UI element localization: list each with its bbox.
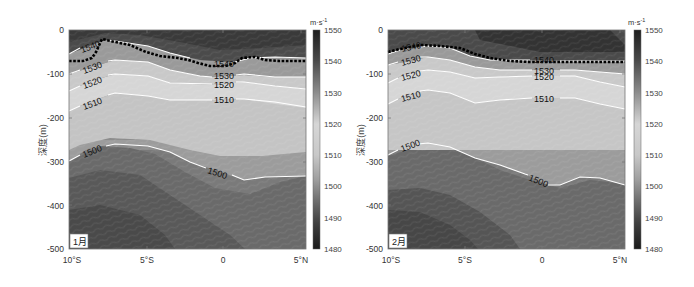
svg-text:1480: 1480	[324, 245, 342, 254]
svg-text:1480: 1480	[645, 245, 663, 254]
svg-text:1500: 1500	[645, 182, 663, 191]
y-tick-label: -200	[366, 113, 383, 123]
svg-text:1510: 1510	[324, 151, 342, 160]
plot-area: 1540 1530 1520 1510 1500 1540 1530 1520 …	[388, 30, 625, 249]
x-tick-label: 0	[221, 255, 226, 265]
contour-label: 1510	[214, 95, 234, 105]
y-tick-label: -400	[366, 201, 383, 211]
svg-text:1530: 1530	[645, 89, 663, 98]
y-tick-label: 0	[378, 25, 383, 35]
y-tick-label: -500	[47, 244, 64, 254]
y-tick-label: -100	[366, 69, 383, 79]
y-tick-label: 0	[59, 25, 64, 35]
colorbar: m·s-1 1550 1540 1530 1520 1510 1500 1490…	[628, 17, 663, 254]
panel-label: 2月	[392, 237, 406, 247]
contour-label: 1540	[534, 55, 554, 65]
svg-text:1550: 1550	[324, 26, 342, 35]
y-tick-label: -200	[47, 113, 64, 123]
colorbar-ticks: 1550 1540 1530 1520 1510 1500 1490 1480	[645, 26, 663, 254]
y-axis: 0 -100 -200 -300 -400 -500	[366, 25, 383, 254]
x-tick-label: 5°S	[458, 255, 472, 265]
contour-label: 1520	[534, 72, 554, 82]
y-axis-label: 深度(m)	[355, 124, 366, 156]
y-tick-label: -100	[47, 69, 64, 79]
figure: 1540 1530 1520 1510 1500 1540 1530 1520 …	[0, 0, 694, 287]
svg-text:1490: 1490	[645, 214, 663, 223]
x-tick-label: 0	[540, 255, 545, 265]
contour-label: 1520	[214, 80, 234, 90]
y-tick-label: -500	[366, 244, 383, 254]
colorbar: m·s-1 1550 1540 1530 1520 1510 1500 1490…	[310, 17, 342, 254]
y-tick-label: -300	[366, 157, 383, 167]
svg-text:1540: 1540	[324, 57, 342, 66]
svg-text:1510: 1510	[645, 151, 663, 160]
colorbar-unit: m·s-1	[628, 17, 645, 27]
x-tick-label: 5°N	[294, 255, 308, 265]
panel-january: 1540 1530 1520 1510 1500 1540 1530 1520 …	[37, 17, 342, 265]
x-tick-label: 10°S	[63, 255, 82, 265]
svg-text:1550: 1550	[645, 26, 663, 35]
colorbar-ticks: 1550 1540 1530 1520 1510 1500 1490 1480	[324, 26, 342, 254]
plot-area: 1540 1530 1520 1510 1500 1540 1530 1520 …	[69, 30, 306, 249]
x-tick-label: 10°S	[382, 255, 401, 265]
y-tick-label: -300	[47, 157, 64, 167]
y-axis: 0 -100 -200 -300 -400 -500	[47, 25, 64, 254]
svg-text:1520: 1520	[645, 120, 663, 129]
svg-text:1500: 1500	[324, 182, 342, 191]
panel-label: 1月	[73, 237, 87, 247]
contour-label: 1510	[534, 94, 554, 104]
x-tick-label: 5°S	[140, 255, 154, 265]
x-axis: 10°S 5°S 0 5°N	[63, 255, 308, 265]
y-axis-label: 深度(m)	[37, 124, 48, 156]
svg-text:1490: 1490	[324, 214, 342, 223]
x-tick-label: 5°N	[613, 255, 627, 265]
x-axis: 10°S 5°S 0 5°N	[382, 255, 627, 265]
y-tick-label: -400	[47, 201, 64, 211]
contour-label: 1540	[214, 59, 234, 69]
svg-text:1540: 1540	[645, 57, 663, 66]
svg-text:1520: 1520	[324, 120, 342, 129]
svg-text:1530: 1530	[324, 89, 342, 98]
panel-february: 1540 1530 1520 1510 1500 1540 1530 1520 …	[355, 17, 663, 265]
